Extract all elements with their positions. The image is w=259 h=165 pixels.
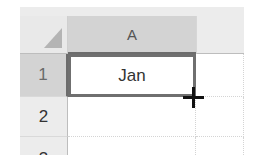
crosshair-vertical-bar bbox=[192, 87, 195, 108]
crosshair-cursor-icon[interactable] bbox=[183, 87, 204, 108]
select-all-button[interactable] bbox=[20, 16, 68, 54]
row-header-3[interactable]: 3 bbox=[20, 137, 68, 155]
cell-b3[interactable] bbox=[196, 137, 244, 155]
spreadsheet-grid: A 1 2 3 Jan bbox=[20, 7, 244, 155]
cell-a1-active[interactable]: Jan bbox=[68, 54, 196, 97]
row-header-1[interactable]: 1 bbox=[20, 54, 68, 97]
cell-a3[interactable] bbox=[68, 137, 196, 155]
row-header-2[interactable]: 2 bbox=[20, 97, 68, 137]
select-all-triangle-icon bbox=[44, 28, 62, 48]
column-header-a[interactable]: A bbox=[68, 16, 196, 54]
column-header-b[interactable] bbox=[196, 16, 244, 54]
cell-a2[interactable] bbox=[68, 97, 196, 137]
